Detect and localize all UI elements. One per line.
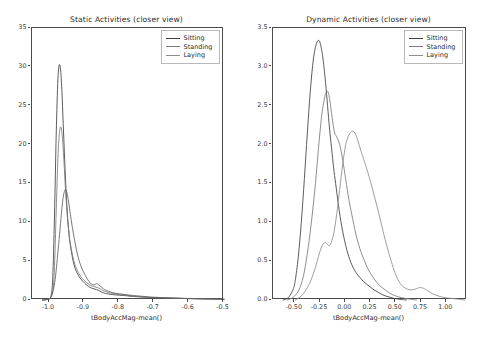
legend-label: Sitting: [184, 34, 205, 43]
y-tick-label: 35: [1, 23, 27, 31]
y-tick-label: 5: [1, 256, 27, 264]
legend-item-standing[interactable]: Standing: [166, 43, 214, 52]
x-tickmark: [48, 299, 49, 302]
y-tickmark: [269, 221, 272, 222]
legend-line-icon: [409, 46, 423, 47]
chart-title-static: Static Activities (closer view): [31, 15, 223, 24]
x-tick-label: 0.00: [337, 303, 351, 311]
y-tick-label: 0: [1, 295, 27, 303]
legend-label: Sitting: [427, 34, 448, 43]
x-tickmark: [293, 299, 294, 302]
legend-line-icon: [409, 55, 423, 56]
legend-line-icon: [166, 46, 180, 47]
legend-line-icon: [166, 55, 180, 56]
y-tickmark: [28, 299, 31, 300]
x-tick-label: -1.0: [42, 303, 54, 311]
x-tick-label: 0.75: [413, 303, 427, 311]
x-tickmark: [82, 299, 83, 302]
legend-line-icon: [166, 38, 180, 39]
x-tick-label: 0.50: [388, 303, 402, 311]
chart-panel-dynamic: Dynamic Activities (closer view) -0.50-0…: [241, 0, 481, 345]
y-tickmark: [269, 182, 272, 183]
legend-item-sitting[interactable]: Sitting: [166, 34, 214, 43]
curve-laying: [42, 190, 224, 300]
y-tick-label: 3.0: [242, 62, 268, 70]
x-tick-label: 1.00: [438, 303, 452, 311]
y-tick-label: 15: [1, 178, 27, 186]
x-tick-label: -0.50: [285, 303, 302, 311]
x-tick-label: 0.25: [362, 303, 376, 311]
y-tickmark: [28, 221, 31, 222]
x-tick-label: -0.8: [112, 303, 124, 311]
x-tick-label: -0.6: [181, 303, 193, 311]
y-tickmark: [28, 27, 31, 28]
x-tickmark: [152, 299, 153, 302]
y-tickmark: [269, 104, 272, 105]
y-tick-label: 1.0: [242, 217, 268, 225]
legend-item-sitting[interactable]: Sitting: [409, 34, 457, 43]
legend-item-laying[interactable]: Laying: [409, 51, 457, 60]
x-axis-label-static: tBodyAccMag-mean(): [31, 314, 223, 322]
x-tick-label: -0.9: [77, 303, 89, 311]
x-tickmark: [319, 299, 320, 302]
x-tickmark: [344, 299, 345, 302]
x-tick-label: -0.25: [311, 303, 328, 311]
y-tick-label: 0.5: [242, 256, 268, 264]
y-tick-label: 3.5: [242, 23, 268, 31]
legend-item-standing[interactable]: Standing: [409, 43, 457, 52]
legend-dynamic: SittingStandingLaying: [404, 30, 463, 64]
y-tick-label: 10: [1, 217, 27, 225]
x-tickmark: [117, 299, 118, 302]
x-tick-label: -0.5: [216, 303, 228, 311]
y-tickmark: [269, 143, 272, 144]
y-tick-label: 0.0: [242, 295, 268, 303]
y-tick-label: 1.5: [242, 178, 268, 186]
y-tickmark: [28, 182, 31, 183]
curve-standing: [287, 91, 416, 300]
x-axis-label-dynamic: tBodyAccMag-mean(): [272, 314, 466, 322]
legend-item-laying[interactable]: Laying: [166, 51, 214, 60]
curve-sitting: [42, 65, 224, 300]
y-tick-label: 2.5: [242, 101, 268, 109]
plot-area-static: [31, 27, 223, 299]
legend-label: Standing: [427, 43, 456, 52]
curve-standing: [42, 127, 224, 300]
legend-label: Laying: [427, 51, 449, 60]
curve-group-static: [32, 28, 224, 300]
y-tickmark: [28, 260, 31, 261]
y-tick-label: 25: [1, 101, 27, 109]
y-tickmark: [269, 27, 272, 28]
x-tickmark: [369, 299, 370, 302]
curve-laying: [295, 131, 465, 300]
y-tick-label: 30: [1, 62, 27, 70]
y-tickmark: [28, 143, 31, 144]
y-tick-label: 20: [1, 140, 27, 148]
y-tickmark: [269, 260, 272, 261]
legend-line-icon: [409, 38, 423, 39]
x-tickmark: [445, 299, 446, 302]
figure-canvas: Static Activities (closer view) -1.0-0.9…: [0, 0, 481, 345]
plot-area-dynamic: [272, 27, 466, 299]
y-tick-label: 2.0: [242, 140, 268, 148]
chart-panel-static: Static Activities (closer view) -1.0-0.9…: [0, 0, 241, 345]
y-tickmark: [28, 104, 31, 105]
y-tickmark: [269, 65, 272, 66]
x-tickmark: [187, 299, 188, 302]
x-tickmark: [222, 299, 223, 302]
y-tickmark: [269, 299, 272, 300]
x-tick-label: -0.7: [146, 303, 158, 311]
legend-static: SittingStandingLaying: [161, 30, 220, 64]
legend-label: Laying: [184, 51, 206, 60]
x-tickmark: [394, 299, 395, 302]
curve-group-dynamic: [273, 28, 467, 300]
x-tickmark: [420, 299, 421, 302]
chart-title-dynamic: Dynamic Activities (closer view): [272, 15, 466, 24]
y-tickmark: [28, 65, 31, 66]
legend-label: Standing: [184, 43, 213, 52]
